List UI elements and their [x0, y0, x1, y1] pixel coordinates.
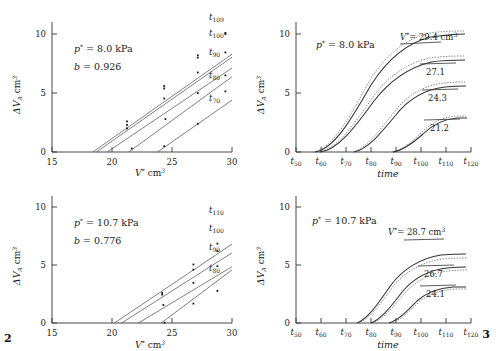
- y-ticklabel-10: 10: [279, 202, 290, 212]
- fit-lines-bl: [114, 244, 232, 323]
- panel-bottom-left: 0 5 10 15 20 25 30 ΔVA cm3 V* cm3: [0, 178, 248, 351]
- y-ticklabel-0: 0: [285, 318, 290, 328]
- x-ticklabel-t120: t120: [464, 156, 479, 167]
- y-axis-label-tl: ΔVA cm3: [11, 76, 23, 116]
- y-axis-label-tr: ΔVA cm3: [255, 76, 267, 116]
- x-ticklabel-30: 30: [227, 328, 238, 338]
- panel-top-right-svg: 0 5 10 t50 t60 t70 t80 t90 t100 t110 t12…: [248, 0, 496, 178]
- label-rule-28-7: [404, 239, 444, 240]
- y-ticklabel-0: 0: [41, 147, 46, 157]
- y-ticklabel-5: 5: [285, 88, 290, 98]
- y-axis-label-bl: ΔVA cm3: [11, 247, 23, 287]
- x-ticklabel-25: 25: [167, 157, 178, 167]
- curve-dotted-21-2: [392, 116, 466, 152]
- x-axis-label-bl: V* cm3: [135, 339, 165, 350]
- panel-top-left-svg: 0 5 10 15 20 25 30 ΔVA cm3: [0, 0, 248, 178]
- annotation-pressure-tl: p* = 8.0 kPa: [74, 43, 133, 54]
- x-ticklabel-t50: t50: [290, 327, 301, 338]
- panel-bottom-left-svg: 0 5 10 15 20 25 30 ΔVA cm3 V* cm3: [0, 178, 248, 351]
- series-label-28-7: V*= 28.7 cm3: [388, 226, 445, 237]
- curve-solid-26-7: [371, 267, 466, 323]
- annotation-pressure-tr: p* = 8.0 kPa: [316, 39, 375, 50]
- annotation-pressure-br: p* = 10.7 kPa: [312, 215, 377, 226]
- annotation-b-tl: b = 0.926: [74, 61, 121, 72]
- x-ticklabel-t60: t60: [315, 156, 326, 167]
- series-label-24-3: 24.3: [428, 93, 447, 103]
- series-label-t100-bl: t100: [209, 223, 224, 234]
- x-ticklabel-25: 25: [167, 328, 178, 338]
- x-ticklabel-t80: t80: [365, 156, 376, 167]
- label-rule-24-1: [420, 285, 456, 286]
- series-label-t100: t100: [209, 28, 224, 39]
- x-ticklabel-20: 20: [107, 328, 118, 338]
- x-ticklabel-t120: t120: [464, 327, 479, 338]
- series-label-24-1: 24.1: [426, 289, 445, 299]
- panel-bottom-right: 0 5 10 t50 t60 t70 t80 t90 t100 t110 t12…: [248, 178, 496, 351]
- annotation-b-bl: b = 0.776: [74, 235, 121, 246]
- page-number-left: 2: [4, 332, 12, 345]
- x-ticklabel-15: 15: [47, 157, 58, 167]
- x-ticklabel-t100: t100: [414, 156, 429, 167]
- x-ticklabel-t70: t70: [340, 327, 351, 338]
- y-ticklabel-0: 0: [41, 318, 46, 328]
- y-ticklabel-10: 10: [35, 202, 46, 212]
- plot-area-top-right: 0 5 10 t50 t60 t70 t80 t90 t100 t110 t12…: [255, 22, 479, 179]
- page-number-right: 3: [482, 328, 490, 341]
- x-axis-unit: cm: [148, 168, 162, 178]
- x-ticklabel-t60: t60: [315, 327, 326, 338]
- x-axis-label-tl: V* cm3: [135, 167, 165, 178]
- annotation-pressure-bl: p* = 10.7 kPa: [74, 217, 139, 228]
- x-ticklabel-t90: t90: [390, 156, 401, 167]
- svg-text:ΔVA cm3: ΔVA cm3: [11, 247, 23, 287]
- fitline-t80: [129, 77, 232, 152]
- series-label-t90-bl: t90: [209, 242, 220, 253]
- panel-bottom-right-svg: 0 5 10 t50 t60 t70 t80 t90 t100 t110 t12…: [248, 178, 496, 351]
- y-ticklabel-10: 10: [35, 29, 46, 39]
- y-ticklabel-5: 5: [285, 260, 290, 270]
- series-label-21-2: 21.2: [430, 123, 449, 133]
- x-axis-unit-sup: 3: [161, 167, 165, 174]
- x-ticklabel-t110: t110: [439, 156, 454, 167]
- y-ticklabel-10: 10: [279, 29, 290, 39]
- x-ticklabel-t100: t100: [414, 327, 429, 338]
- axis-spines: [52, 196, 232, 323]
- fitline-t70: [158, 100, 232, 152]
- series-label-t80: t80: [209, 70, 220, 81]
- data-points-bl: [161, 243, 218, 324]
- svg-text:ΔVA cm3: ΔVA cm3: [255, 247, 267, 287]
- plot-area-top-left: 0 5 10 15 20 25 30 ΔVA cm3: [11, 12, 237, 178]
- y-ticklabel-5: 5: [41, 88, 46, 98]
- panel-top-right: 0 5 10 t50 t60 t70 t80 t90 t100 t110 t12…: [248, 0, 496, 178]
- x-ticklabel-t90: t90: [390, 327, 401, 338]
- curve-solid-28-7: [357, 254, 466, 323]
- series-label-27-1: 27.1: [426, 67, 445, 77]
- y-axis-label-br: ΔVA cm3: [255, 247, 267, 287]
- series-label-26-7: 26.7: [424, 269, 443, 279]
- figure-container: 0 5 10 15 20 25 30 ΔVA cm3: [0, 0, 496, 351]
- series-label-t70: t70: [209, 93, 220, 104]
- x-ticklabel-t80: t80: [365, 327, 376, 338]
- y-ticklabel-0: 0: [285, 147, 290, 157]
- x-axis-label-br: time: [377, 339, 399, 350]
- series-label-t110: t110: [209, 205, 224, 216]
- y-axis-unit: cm: [12, 79, 22, 93]
- panel-top-left: 0 5 10 15 20 25 30 ΔVA cm3: [0, 0, 248, 178]
- label-rule-26-7: [418, 265, 454, 266]
- y-axis-unit-sup: 3: [11, 76, 18, 80]
- series-label-t80-bl: t80: [209, 263, 220, 274]
- plot-area-bottom-left: 0 5 10 15 20 25 30 ΔVA cm3 V* cm3: [11, 196, 237, 350]
- curves-br: [357, 254, 467, 323]
- x-ticklabel-15: 15: [47, 328, 58, 338]
- label-rule-24-3: [422, 89, 458, 90]
- fitline-t80: [161, 270, 232, 323]
- x-ticklabel-30: 30: [227, 157, 238, 167]
- axis-spines: [52, 22, 232, 152]
- x-ticklabel-t50: t50: [290, 156, 301, 167]
- label-rule-21-2: [424, 119, 460, 120]
- x-ticklabel-t110: t110: [439, 327, 454, 338]
- x-ticklabel-t70: t70: [340, 156, 351, 167]
- curve-dotted-24-3: [353, 82, 465, 152]
- y-axis-symbol: ΔV: [11, 99, 22, 115]
- curve-dotted-26-7: [372, 270, 467, 323]
- x-ticklabel-20: 20: [107, 157, 118, 167]
